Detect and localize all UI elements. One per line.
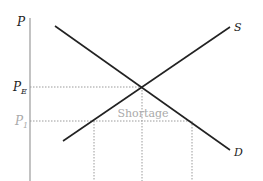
supply-curve [63,27,230,141]
equilibrium-price-label: P E [12,80,27,96]
price-axis-label: P [16,15,26,29]
demand-curve-label: D [233,146,243,159]
svg-text:1: 1 [23,121,28,130]
supply-curve-label: S [234,21,242,34]
supply-demand-diagram: P S D P E P 1 Shortage [0,0,263,181]
svg-text:E: E [20,87,27,96]
p1-price-label: P 1 [14,114,28,130]
shortage-label: Shortage [117,107,168,120]
